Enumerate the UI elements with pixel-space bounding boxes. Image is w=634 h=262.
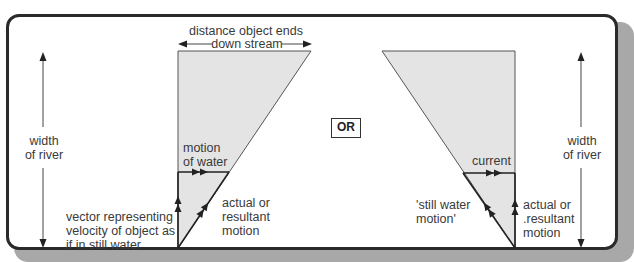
or-separator: OR xyxy=(331,118,361,138)
left-resultant-motion-label: actual or resultant motion xyxy=(222,196,270,238)
left-distance-label: distance object ends xyxy=(182,24,310,38)
left-still-water-vector-label: vector representing velocity of object a… xyxy=(66,210,175,252)
right-current-label: current xyxy=(472,154,511,168)
left-width-of-river-label: width of river xyxy=(22,134,66,162)
left-motion-of-water-label: motion of water xyxy=(183,141,227,169)
left-distance-label-line2: down stream xyxy=(210,37,284,51)
right-resultant-motion-label: actual or .resultant motion xyxy=(523,198,574,240)
right-width-of-river-label: width of river xyxy=(558,134,606,162)
right-still-water-motion-label: 'still water motion' xyxy=(416,198,470,226)
